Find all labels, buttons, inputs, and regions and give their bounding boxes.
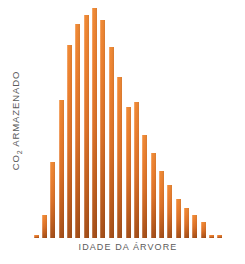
bar xyxy=(184,208,189,238)
bar xyxy=(67,45,72,238)
bar xyxy=(42,215,47,238)
bar xyxy=(126,107,131,238)
bar xyxy=(151,153,156,238)
plot-area xyxy=(32,8,224,238)
y-axis-label-text: CO2 ARMAZENADO xyxy=(11,70,24,170)
bar xyxy=(134,102,139,238)
x-axis-label: IDADE DA ÁRVORE xyxy=(32,242,224,260)
co2-vs-tree-age-bar-chart: CO2 ARMAZENADO IDADE DA ÁRVORE xyxy=(0,0,245,264)
bar xyxy=(217,235,222,238)
y-axis-label-main: CO xyxy=(11,154,22,170)
bar xyxy=(167,185,172,238)
bar xyxy=(59,100,64,238)
bar xyxy=(92,8,97,238)
x-axis-label-text: IDADE DA ÁRVORE xyxy=(79,242,178,252)
bar xyxy=(34,235,39,238)
bar xyxy=(201,222,206,238)
bar xyxy=(117,77,122,238)
bar xyxy=(209,235,214,238)
y-axis-label-rest: ARMAZENADO xyxy=(11,70,22,149)
y-axis-label: CO2 ARMAZENADO xyxy=(0,0,34,240)
bar xyxy=(192,215,197,238)
bar xyxy=(142,135,147,239)
bar xyxy=(75,24,80,238)
bar xyxy=(84,15,89,238)
bar xyxy=(159,171,164,238)
bar xyxy=(50,162,55,238)
bar xyxy=(176,199,181,238)
bar xyxy=(109,47,114,238)
bar xyxy=(100,20,105,239)
